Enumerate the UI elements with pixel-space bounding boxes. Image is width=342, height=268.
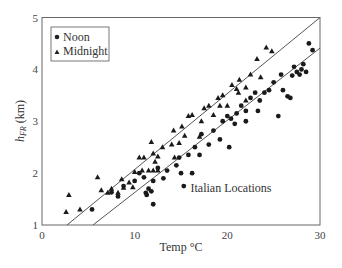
midnight-point <box>243 98 249 103</box>
midnight-point <box>199 118 205 123</box>
y-axis-label-sub: FR <box>19 126 28 137</box>
fit-line <box>93 48 320 225</box>
noon-point <box>292 64 297 69</box>
x-tick-label: 30 <box>315 229 327 241</box>
midnight-point <box>243 85 249 90</box>
noon-point <box>181 184 186 189</box>
y-axis-label-unit: (km) <box>13 100 27 126</box>
x-tick-label: 10 <box>129 229 141 241</box>
midnight-point <box>77 206 83 211</box>
midnight-point <box>63 209 69 214</box>
noon-point <box>149 189 154 194</box>
noon-point <box>90 207 95 212</box>
noon-point <box>132 179 137 184</box>
y-tick-label: 5 <box>33 12 39 24</box>
x-axis-label: Temp °C <box>160 240 203 254</box>
noon-point <box>220 119 225 124</box>
noon-point <box>279 72 284 77</box>
noon-point <box>151 202 156 207</box>
noon-point <box>306 41 311 46</box>
midnight-point <box>146 168 152 173</box>
noon-point <box>276 114 281 119</box>
midnight-point <box>229 82 235 87</box>
x-tick-label: 20 <box>222 229 234 241</box>
y-axis-label: hFR (km) <box>13 100 28 142</box>
midnight-point <box>189 112 195 117</box>
data-points <box>63 41 315 214</box>
midnight-point <box>139 168 145 173</box>
midnight-point <box>182 133 188 138</box>
midnight-point <box>130 184 136 189</box>
noon-point <box>232 121 237 126</box>
midnight-point <box>258 74 264 79</box>
midnight-point <box>237 77 243 82</box>
annotation-italian-locations: Italian Locations <box>191 181 272 195</box>
noon-point <box>281 88 286 93</box>
noon-point <box>142 175 147 180</box>
midnight-point <box>269 48 275 53</box>
midnight-point <box>176 140 182 145</box>
midnight-point <box>141 155 147 160</box>
noon-point <box>297 72 302 77</box>
noon-point <box>179 171 184 176</box>
midnight-point <box>150 168 156 173</box>
noon-point <box>288 96 293 101</box>
noon-point <box>256 108 261 113</box>
midnight-point <box>220 92 226 97</box>
noon-point <box>262 90 267 95</box>
midnight-point <box>66 192 72 197</box>
noon-point <box>253 90 258 95</box>
midnight-point <box>155 154 161 159</box>
noon-point <box>190 171 195 176</box>
noon-point <box>290 73 295 78</box>
midnight-point <box>179 123 185 128</box>
midnight-point <box>201 105 207 110</box>
midnight-point <box>263 45 269 50</box>
y-tick-label: 4 <box>33 63 39 75</box>
noon-point <box>144 193 149 198</box>
y-tick-label: 1 <box>33 219 39 231</box>
noon-point <box>229 116 234 121</box>
midnight-point <box>215 95 221 100</box>
noon-point <box>165 168 170 173</box>
y-tick-label: 3 <box>33 115 39 127</box>
noon-point <box>206 142 211 147</box>
noon-point <box>161 176 166 181</box>
midnight-point <box>95 174 101 179</box>
noon-point <box>257 98 262 103</box>
noon-point <box>186 153 191 158</box>
midnight-point <box>217 103 223 108</box>
midnight-point <box>149 139 155 144</box>
noon-point <box>299 67 304 72</box>
noon-point <box>310 48 315 53</box>
noon-point <box>234 111 239 116</box>
midnight-point <box>211 112 217 117</box>
noon-point <box>304 70 309 75</box>
noon-point <box>151 179 156 184</box>
noon-point <box>197 153 202 158</box>
noon-point <box>227 145 232 150</box>
legend-circle-icon <box>55 35 60 40</box>
noon-point <box>248 96 253 101</box>
midnight-point <box>172 155 178 160</box>
midnight-point <box>137 155 143 160</box>
midnight-point <box>206 103 212 108</box>
noon-point <box>218 137 223 142</box>
midnight-point <box>152 159 158 164</box>
noon-point <box>243 108 248 113</box>
midnight-point <box>115 190 121 195</box>
midnight-point <box>99 187 105 192</box>
legend-label-midnight: Midnight <box>63 44 108 58</box>
noon-point <box>239 103 244 108</box>
midnight-point <box>171 128 177 133</box>
noon-point <box>301 62 306 67</box>
noon-point <box>243 119 248 124</box>
midnight-point <box>126 179 132 184</box>
noon-point <box>271 80 276 85</box>
midnight-point <box>225 103 231 108</box>
noon-point <box>193 145 198 150</box>
legend: Noon Midnight <box>51 27 109 61</box>
y-tick-label: 2 <box>33 167 39 179</box>
noon-point <box>211 128 216 133</box>
midnight-point <box>169 142 175 147</box>
